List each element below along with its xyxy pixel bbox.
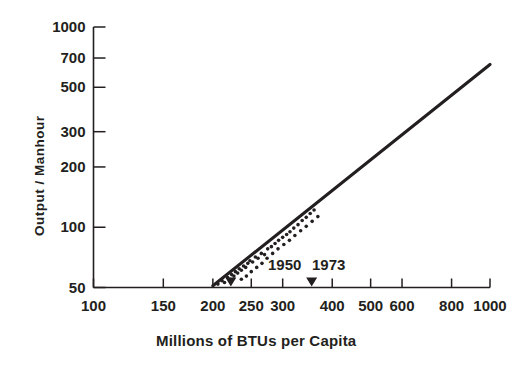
scatter-point	[251, 260, 255, 264]
scatter-point	[299, 229, 303, 233]
scatter-point	[308, 212, 312, 216]
y-axis-title: Output / Manhour	[32, 116, 47, 236]
scatter-point	[271, 252, 275, 256]
scatter-point	[236, 271, 240, 275]
x-tick-label: 500	[358, 297, 383, 314]
scatter-point	[260, 252, 264, 256]
scatter-point	[316, 215, 320, 219]
x-tick-label: 100	[81, 297, 106, 314]
annotation-markers	[225, 278, 317, 287]
scatter-point	[263, 253, 267, 257]
x-axis-ticks	[94, 279, 491, 288]
scatter-point	[304, 216, 308, 220]
scatter-point	[293, 234, 297, 238]
scatter-point	[260, 262, 264, 266]
scatter-point	[296, 223, 300, 227]
x-tick-label: 200	[200, 297, 225, 314]
annotation-label: 1950	[268, 256, 301, 273]
scatter-point	[281, 236, 285, 240]
scatter-point	[292, 226, 296, 230]
scatter-point	[266, 247, 270, 251]
y-axis-ticks	[94, 27, 106, 288]
scatter-point	[304, 225, 308, 229]
scatter-point	[273, 242, 277, 246]
x-tick-label: 250	[239, 297, 264, 314]
annotation-label: 1973	[312, 256, 345, 273]
x-tick-label: 300	[270, 297, 295, 314]
scatter-point	[256, 256, 260, 260]
scatter-points	[216, 208, 320, 286]
scatter-point	[277, 239, 281, 243]
scatter-point	[245, 274, 249, 278]
scatter-point	[223, 281, 227, 285]
y-tick-label: 100	[60, 218, 85, 235]
scatter-point	[240, 277, 244, 281]
x-tick-label: 1000	[473, 297, 506, 314]
y-tick-label: 300	[60, 123, 85, 140]
scatter-point	[276, 247, 280, 251]
scatter-point	[232, 274, 236, 278]
scatter-point	[288, 230, 292, 234]
scatter-point	[255, 266, 259, 270]
scatter-point	[249, 270, 253, 274]
y-tick-label: 700	[60, 49, 85, 66]
scatter-point	[285, 233, 289, 237]
y-tick-label: 500	[60, 78, 85, 95]
x-axis-title: Millions of BTUs per Capita	[156, 332, 356, 349]
trend-line	[213, 64, 490, 285]
scatter-point	[300, 219, 304, 223]
scatter-point	[216, 282, 220, 286]
x-tick-label: 800	[439, 297, 464, 314]
scatter-point	[310, 220, 314, 224]
trend-line-path	[213, 64, 490, 285]
y-tick-label: 200	[60, 158, 85, 175]
y-tick-label: 1000	[52, 18, 85, 35]
scatter-point	[244, 266, 248, 270]
scatter-point	[288, 239, 292, 243]
scatter-point	[240, 268, 244, 272]
scatter-point	[270, 245, 274, 249]
x-tick-label: 150	[151, 297, 176, 314]
chart-figure: 501002003005007001000 100150200250300400…	[0, 0, 519, 365]
x-tick-label: 600	[390, 297, 415, 314]
down-triangle-icon	[225, 278, 236, 287]
y-tick-label: 50	[69, 279, 86, 296]
axis-lines	[94, 27, 491, 288]
scatter-point	[312, 208, 316, 212]
x-tick-label: 400	[320, 297, 345, 314]
scatter-point	[282, 243, 286, 247]
down-triangle-icon	[306, 278, 317, 287]
